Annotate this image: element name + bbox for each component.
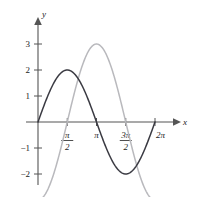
sine-curves-plot: x y π2π3π22π 321−1−2 — [0, 0, 200, 197]
y-tick-label: −2 — [20, 169, 30, 179]
y-tick-label: 2 — [26, 65, 31, 75]
x-axis-label: x — [182, 117, 187, 127]
curve-group — [38, 44, 155, 197]
x-tick-label: π — [94, 130, 99, 140]
x-tick-label: 2π — [156, 130, 166, 140]
svg-text:2: 2 — [65, 142, 70, 152]
y-axis-arrow — [34, 17, 42, 25]
svg-text:2π: 2π — [156, 130, 166, 140]
x-axis: x — [26, 117, 187, 127]
y-tick-label: 1 — [26, 91, 31, 101]
chart-figure: x y π2π3π22π 321−1−2 — [0, 0, 200, 197]
y-axis-label: y — [41, 9, 46, 19]
svg-text:π: π — [94, 130, 99, 140]
y-tick-label: −1 — [20, 143, 30, 153]
y-axis: y — [34, 9, 46, 185]
y-tick-label: 3 — [26, 39, 31, 49]
x-axis-arrow — [173, 118, 181, 126]
svg-text:2: 2 — [124, 142, 129, 152]
y-tick-group: 321−1−2 — [20, 39, 42, 179]
